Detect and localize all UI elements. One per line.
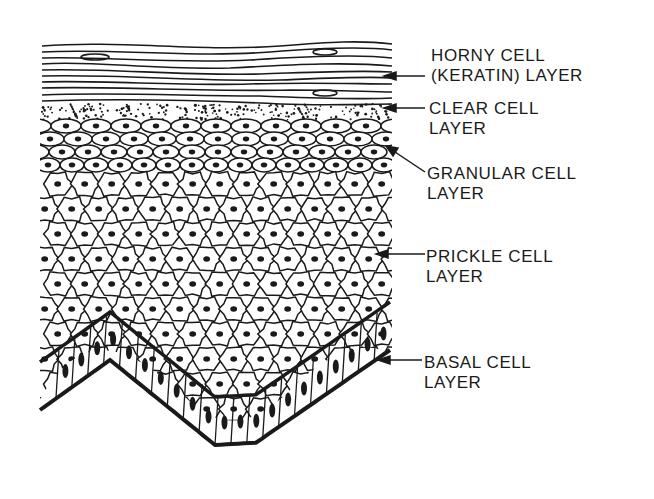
label-line: BASAL CELL [424,353,531,373]
label-line: LAYER [426,267,553,287]
granular-layer [21,119,411,172]
horny-layer [42,42,392,105]
label-horny-cell-layer: HORNY CELL (KERATIN) LAYER [431,46,583,86]
label-granular-cell-layer: GRANULAR CELL LAYER [427,164,577,204]
label-line: PRICKLE CELL [426,247,553,267]
label-line: LAYER [429,119,539,139]
label-line: LAYER [427,184,577,204]
label-line: GRANULAR CELL [427,164,577,184]
label-clear-cell-layer: CLEAR CELL LAYER [429,99,539,139]
label-line: CLEAR CELL [429,99,539,119]
leader-arrows [376,72,425,364]
label-basal-cell-layer: BASAL CELL LAYER [424,353,531,393]
label-prickle-cell-layer: PRICKLE CELL LAYER [426,247,553,287]
label-line: (KERATIN) LAYER [431,66,583,86]
label-line: HORNY CELL [431,46,583,66]
prickle-layer [29,172,411,422]
label-line: LAYER [424,373,531,393]
